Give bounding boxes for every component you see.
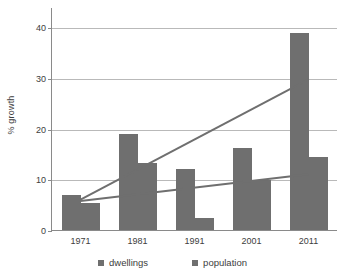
y-tick-label: 0: [16, 226, 46, 236]
legend-swatch-icon: [192, 260, 198, 266]
dwellings-trend: [81, 79, 309, 199]
x-tick-label: 1981: [113, 236, 163, 246]
legend-item-population[interactable]: population: [192, 257, 247, 268]
chart-legend: dwellingspopulation: [0, 257, 345, 268]
x-tick-label: 1971: [56, 236, 106, 246]
legend-label: population: [203, 257, 247, 268]
y-tick-label: 40: [16, 23, 46, 33]
y-tick-mark: [48, 231, 52, 232]
population-trend: [81, 174, 309, 201]
legend-label: dwellings: [109, 257, 148, 268]
x-tick-label: 1991: [170, 236, 220, 246]
y-tick-label: 20: [16, 125, 46, 135]
y-tick-label: 30: [16, 74, 46, 84]
legend-item-dwellings[interactable]: dwellings: [98, 257, 148, 268]
growth-bar-chart: % growth 010203040 19711981199120012011 …: [0, 0, 345, 280]
x-tick-label: 2001: [227, 236, 277, 246]
plot-area: [52, 18, 337, 231]
trendlines-layer: [52, 18, 337, 231]
x-tick-label: 2011: [284, 236, 334, 246]
legend-swatch-icon: [98, 260, 104, 266]
y-axis-title-label: % growth: [6, 95, 16, 134]
y-axis-title: % growth: [2, 0, 20, 230]
y-tick-label: 10: [16, 175, 46, 185]
